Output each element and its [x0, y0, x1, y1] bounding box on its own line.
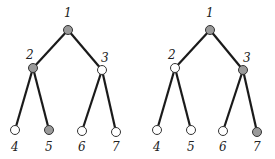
node-6-empty: [78, 127, 87, 136]
edge-2-4: [15, 68, 33, 130]
edge-3-7: [102, 70, 116, 132]
node-label: 2: [167, 48, 176, 62]
edge-3-6: [223, 70, 243, 131]
node-label: 4: [10, 140, 19, 154]
node-7-empty: [112, 128, 121, 137]
node-4-empty: [153, 126, 162, 135]
edge-2-5: [175, 68, 191, 130]
node-2-filled: [29, 64, 38, 73]
node-5-filled: [45, 126, 54, 135]
node-2-empty: [171, 64, 180, 73]
node-label: 5: [45, 140, 53, 154]
edge-2-4: [157, 68, 175, 130]
edge-3-6: [82, 70, 102, 131]
right-tree: 1234567: [152, 6, 262, 154]
edge-1-3: [68, 30, 102, 70]
node-label: 2: [25, 48, 34, 62]
tree-diagram-svg: 12345671234567: [0, 0, 275, 159]
node-3-empty: [98, 66, 107, 75]
left-tree: 1234567: [10, 6, 121, 154]
tree-diagram: 12345671234567: [0, 0, 275, 159]
node-label: 7: [253, 140, 261, 154]
node-label: 4: [152, 140, 161, 154]
node-label: 1: [206, 6, 214, 20]
node-6-empty: [219, 127, 228, 136]
edge-2-5: [33, 68, 49, 130]
node-5-empty: [187, 126, 196, 135]
node-label: 7: [112, 140, 120, 154]
node-label: 6: [219, 140, 227, 154]
node-1-filled: [64, 26, 73, 35]
node-4-empty: [11, 126, 20, 135]
node-label: 6: [78, 140, 86, 154]
node-label: 1: [64, 6, 72, 20]
edge-1-2: [175, 30, 210, 68]
edge-1-3: [210, 30, 243, 70]
node-label: 3: [101, 51, 109, 65]
node-label: 3: [243, 51, 251, 65]
node-label: 5: [187, 140, 195, 154]
edge-1-2: [33, 30, 68, 68]
node-7-filled: [253, 128, 262, 137]
node-1-filled: [206, 26, 215, 35]
edge-3-7: [243, 70, 257, 132]
node-3-filled: [239, 66, 248, 75]
